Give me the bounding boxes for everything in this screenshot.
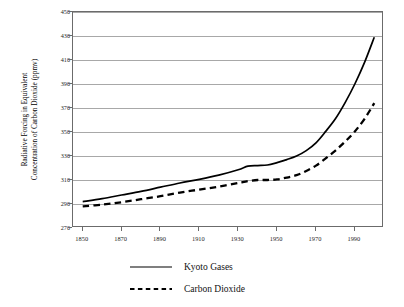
y-axis-title-line-2: Concentration of Carbon Dioxide (ppmv) [31,58,41,179]
y-axis-title: Radiative Forcing in Equivalent Concentr… [14,11,48,227]
legend-item-kyoto-gases: Kyoto Gases [130,260,233,274]
x-axis-tick-labels: 18501870189019101930195019701990 [72,235,383,247]
x-axis-tick-mark [315,227,316,231]
series-layer [73,12,384,228]
x-axis-tick-mark [82,227,83,231]
legend-label-kyoto-gases: Kyoto Gases [184,262,233,272]
x-axis-tick-mark [159,227,160,231]
x-axis-tick-label: 1910 [192,235,205,242]
x-axis-tick-mark [121,227,122,231]
x-axis-tick-label: 1990 [347,235,360,242]
x-axis-tick-label: 1930 [231,235,244,242]
x-axis-tick-mark [198,227,199,231]
x-axis-tick-mark [237,227,238,231]
plot-area [72,11,383,227]
x-axis-tick-label: 1950 [270,235,283,242]
chart-legend: Kyoto Gases Carbon Dioxide [72,258,383,304]
x-axis-tick-label: 1850 [75,235,88,242]
legend-label-carbon-dioxide: Carbon Dioxide [184,284,245,294]
x-axis-tick-marks [72,227,383,233]
x-axis-tick-label: 1970 [309,235,322,242]
series-line-kyoto-gases [83,37,375,201]
y-axis-title-line-1: Radiative Forcing in Equivalent [22,58,32,179]
x-axis-tick-label: 1890 [153,235,166,242]
chart-figure: Radiative Forcing in Equivalent Concentr… [0,0,404,307]
legend-item-carbon-dioxide: Carbon Dioxide [130,282,245,296]
series-line-carbon-dioxide [83,103,375,206]
x-axis-tick-label: 1870 [114,235,127,242]
x-axis-tick-mark [354,227,355,231]
legend-swatch-solid-line-icon [130,262,172,272]
legend-swatch-dashed-line-icon [130,284,172,294]
x-axis-tick-mark [276,227,277,231]
